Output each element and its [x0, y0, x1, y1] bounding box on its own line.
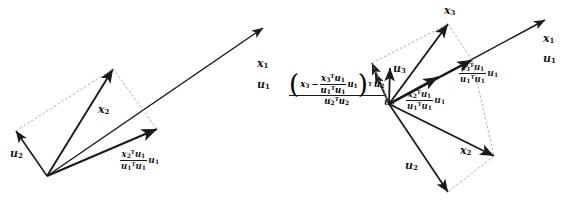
close-paren: ) [358, 74, 368, 95]
formula-projection-x2-on-u1-left: x2Tu1 u1Tu1 u1 [120, 149, 159, 171]
label-x1-left: x1 [257, 58, 268, 69]
label-x3-right: x3 [444, 5, 455, 16]
formula-denominator: u1Tu1 [120, 161, 147, 172]
label-u2-right: u2 [405, 160, 418, 171]
inner-numerator: x3Tu1 [320, 73, 346, 84]
formula-numerator: x2Tu1 [407, 89, 433, 100]
formula-denominator: u1Tu1 [406, 101, 433, 112]
formula-orthogonalization-x3-on-u2: ( x3 − x3Tu1 u1Tu1 u1 ) T u2 u2Tu2 [289, 73, 384, 107]
formula-tail-vector-u2: u2 [384, 98, 395, 107]
right-panel-group [372, 20, 545, 192]
formula-projection-x3-on-u1: x3Tu1 u1Tu1 u1 [459, 62, 498, 84]
formula-numerator: x3Tu1 [460, 62, 486, 73]
label-x2-right: x2 [460, 145, 471, 156]
label-x1-right: x1 [543, 33, 554, 44]
dashed-u2-translate-left [16, 69, 113, 131]
label-u3-right: u3 [393, 63, 406, 74]
inner-denominator: u1Tu1 [320, 85, 347, 96]
vector-artwork [0, 0, 564, 209]
label-u1-left: u1 [257, 79, 270, 90]
figure-canvas: x2 u2 x1 u1 x2Tu1 u1Tu1 u1 x3 u3 u2 x2 x… [0, 0, 564, 209]
label-x2-left: x2 [98, 104, 109, 115]
arrow-u2-right [389, 104, 448, 192]
formula-numerator: x2Tu1 [121, 149, 147, 160]
minus-sign: − [310, 79, 319, 89]
label-u1-right: u1 [543, 53, 556, 64]
formula-tail-vector: u1 [433, 95, 445, 105]
open-paren: ( [289, 74, 299, 95]
formula-projection-x2-on-u1-right: x2Tu1 u1Tu1 u1 [406, 89, 445, 111]
inner-tail-vector: u1 [346, 79, 357, 89]
inner-fraction: x3Tu1 u1Tu1 [320, 73, 347, 95]
post-paren-vector: u2 [372, 79, 384, 89]
formula-tail-vector: u1 [147, 155, 159, 165]
dashed-x3-top-left [372, 24, 448, 63]
formula-numerator: ( x3 − x3Tu1 u1Tu1 u1 ) T u2 [289, 73, 384, 95]
arrow-x2-right [389, 104, 494, 156]
formula-denominator: u1Tu1 [459, 74, 486, 85]
arrow-x2-left [47, 69, 113, 176]
dashed-proj-translate-left [113, 69, 157, 129]
label-u2-left: u2 [10, 148, 23, 159]
dashed-x3-to-foot [448, 24, 472, 60]
formula-denominator: u2Tu2 [324, 96, 349, 107]
lead-vector: x3 [299, 79, 310, 89]
formula-tail-vector: u1 [486, 68, 498, 78]
dashed-x2-to-u2 [448, 156, 494, 192]
